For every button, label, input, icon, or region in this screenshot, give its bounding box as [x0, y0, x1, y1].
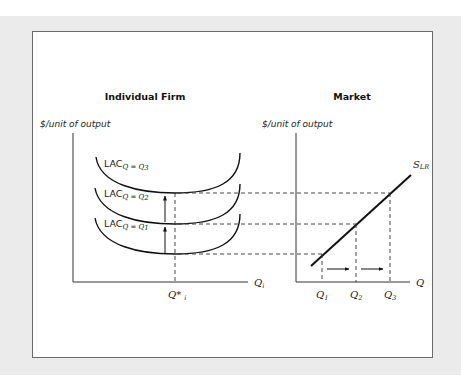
- lac-label-q1: LACQ = Q1: [104, 218, 149, 232]
- supply-label: SLR: [413, 159, 429, 171]
- tick-label-q1: Q1: [316, 289, 328, 302]
- tick-label-q3: Q3: [384, 289, 396, 302]
- left-y-axis-label: $/unit of output: [40, 119, 111, 129]
- supply-curve-lr: [311, 175, 411, 266]
- right-panel-title: Market: [333, 91, 371, 102]
- left-x-axis-label: Qi: [254, 277, 264, 290]
- left-panel-title: Individual Firm: [105, 91, 186, 102]
- figure-canvas: Individual Firm Market $/unit of output …: [0, 0, 461, 380]
- right-y-axis-label: $/unit of output: [262, 119, 333, 129]
- right-x-axis-label: Q: [416, 277, 424, 288]
- q-star-label: Q*i: [168, 289, 186, 302]
- tick-label-q2: Q2: [350, 289, 362, 302]
- lac-label-q3: LACQ = Q3: [104, 158, 149, 172]
